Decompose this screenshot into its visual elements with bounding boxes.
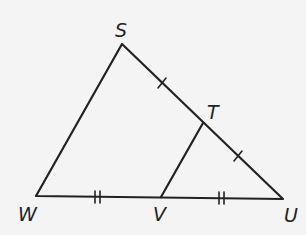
vertex-label-v: V (153, 203, 168, 225)
vertex-label-u: U (284, 204, 298, 226)
triangle-swu (36, 44, 283, 199)
vertex-label-t: T (207, 101, 220, 123)
segment-tv (161, 123, 203, 197)
diagram-canvas: S T W V U (0, 0, 306, 235)
triangle-diagram: S T W V U (0, 0, 306, 235)
vertex-label-s: S (115, 19, 127, 41)
vertex-label-w: W (18, 203, 38, 225)
